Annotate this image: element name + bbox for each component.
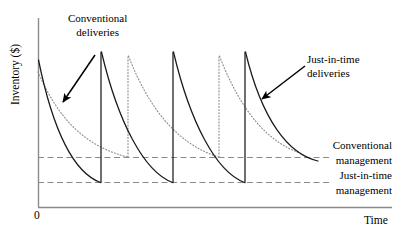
y-axis-label: Inventory ($) bbox=[9, 29, 22, 121]
inventory-chart-figure: Inventory ($) Time 0 Conventional delive… bbox=[0, 0, 402, 236]
conventional-deliveries-line2: deliveries bbox=[68, 25, 127, 39]
conventional-deliveries-line1: Conventional bbox=[68, 11, 127, 25]
jit-decay-0 bbox=[39, 60, 101, 183]
jit-deliveries-annotation: Just-in-time deliveries bbox=[307, 52, 360, 80]
jit-deliveries-line1: Just-in-time bbox=[307, 52, 360, 66]
jit-management-line2: management bbox=[190, 183, 392, 198]
jit-management-line1: Just-in-time bbox=[190, 168, 392, 183]
conventional-decay-1 bbox=[38, 72, 128, 157]
annotation-arrows-group bbox=[63, 55, 305, 102]
conventional-management-annotation: Conventional management bbox=[190, 138, 392, 168]
chart-canvas bbox=[0, 0, 402, 236]
jit-deliveries-line2: deliveries bbox=[307, 66, 360, 80]
conventional-deliveries-annotation: Conventional deliveries bbox=[68, 11, 127, 39]
jit-decay-1 bbox=[102, 52, 173, 183]
conventional-management-line2: management bbox=[190, 153, 392, 168]
conventional-deliveries-arrow bbox=[63, 55, 95, 102]
origin-tick-label: 0 bbox=[34, 209, 40, 222]
x-axis-label: Time bbox=[364, 214, 388, 227]
jit-management-annotation: Just-in-time management bbox=[190, 168, 392, 198]
conventional-management-line1: Conventional bbox=[190, 138, 392, 153]
jit-deliveries-arrow bbox=[262, 66, 305, 99]
